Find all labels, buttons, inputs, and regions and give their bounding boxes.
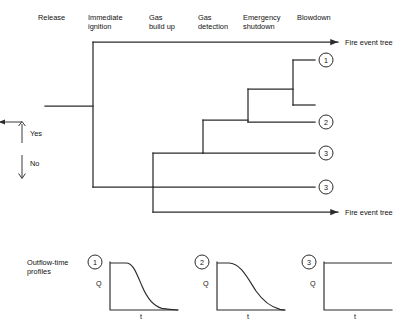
profile-ylabel-1: Q	[96, 279, 102, 288]
profile-xlabel-3: t	[354, 312, 356, 321]
profile-curve-2	[217, 263, 285, 310]
profile-xlabel-1: t	[140, 312, 142, 321]
profile-axes-1	[110, 262, 178, 310]
profile-xlabel-2: t	[247, 312, 249, 321]
profile-axes-2	[217, 262, 285, 310]
profile-badge-3: 3	[307, 258, 311, 267]
profile-badge-2: 2	[200, 258, 204, 267]
profile-badge-1: 1	[93, 258, 97, 267]
profile-ylabel-3: Q	[310, 279, 316, 288]
profile-curve-1	[110, 263, 178, 310]
event-tree-diagram: Release Immediate ignition Gas build up …	[0, 0, 415, 328]
profile-ylabel-2: Q	[203, 279, 209, 288]
profile-axes-3	[324, 262, 392, 310]
